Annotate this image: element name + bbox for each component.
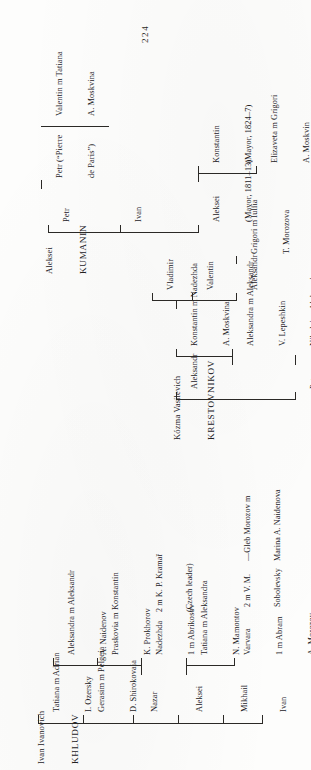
page-number: 224 (140, 25, 150, 43)
krestovnikov-spine (176, 399, 295, 400)
aleksei-child-varvara: Varvara 1 m Abram A. Morozov (222, 613, 311, 655)
kumanin-tick-1 (198, 225, 199, 233)
kr-k-tick-1 (236, 293, 237, 301)
nazar-tick-3 (53, 658, 54, 666)
varvara-second-marriage: 2 m V. M. Sobolevsky (222, 568, 304, 607)
aleksei-tick-2 (186, 658, 187, 666)
krestovnikov-child-petr: Petr (288, 375, 311, 389)
kumanin-aleksei-spine (198, 173, 256, 174)
kr-a-tick-1 (232, 349, 233, 357)
aleksei-spine (186, 665, 234, 666)
krestovnikov-grigori-stem (236, 256, 237, 264)
nazar-tick-2 (97, 658, 98, 666)
kumanin-spine (48, 232, 198, 233)
khludov-patriarch: Ivan Ivanovich KHLUDOV (14, 711, 104, 764)
khludov-tick-2 (223, 715, 224, 724)
kumanin-valentin-spine (41, 126, 109, 127)
krestovnikov-petr-stem (295, 355, 296, 365)
nazar-tick-1 (141, 658, 142, 666)
krestovnikov-konstantin-spine (152, 300, 236, 301)
kr-k-tick-2 (192, 293, 193, 301)
krestovnikov-aleksandr-stem (232, 356, 233, 365)
krestovnikov-child-aleksandr: Aleksandr (169, 354, 222, 389)
khludov-tick-5 (83, 715, 84, 724)
khludov-tick-3 (178, 715, 179, 724)
khludov-tick-6 (38, 715, 39, 724)
khludov-spine (38, 723, 262, 724)
aleksei-stem (186, 665, 187, 675)
krestovnikov-tick-2 (176, 392, 177, 400)
varvara-issue-gleb: —Gleb Morozov m Marina A. Naidenova (222, 489, 304, 561)
krestovnikov-aleksandr-spine (176, 356, 232, 357)
kr-a-tick-2 (176, 349, 177, 357)
kumanin-elizaveta: Elizaveta m Grigori A. Moskvin (249, 95, 311, 163)
kumanin-a-tick-1 (256, 166, 257, 174)
khludov-tick-4 (133, 715, 134, 724)
krestovnikov-tick-1 (295, 392, 296, 400)
krestovnikov-konstantin-stem (176, 300, 177, 309)
kumanin-child-ivan: Ivan (113, 207, 166, 222)
kumanin-a-tick-2 (198, 166, 199, 174)
kumanin-aleksei-stem (198, 173, 199, 182)
kumanin-valentin: Valentin m Tatiana A. Moskvina (34, 51, 119, 116)
khludov-child-ivan: Ivan (258, 697, 311, 712)
kumanin-petr-child: Petr (“Pierre de Paris”) (34, 135, 119, 178)
krestovnikov-gc-aleksandr: Aleksandr (229, 255, 282, 290)
aleksei-tick-1 (234, 658, 235, 666)
khludov-tick-1 (262, 715, 263, 724)
chart-page: Ivan Ivanovich KHLUDOV Tatiana m Adrian … (0, 0, 311, 770)
krestovnikov-grigori: Grigori m Iuliia T. Morozova (229, 199, 311, 254)
nazar-stem (141, 665, 142, 675)
kumanin-tick-2 (120, 225, 121, 233)
kumanin-petr-stem (41, 180, 42, 189)
kumanin-tick-3 (48, 225, 49, 233)
krestovnikov-nikolai: Nikolai m Aleksandra I. Chetverikova (288, 271, 311, 347)
kr-k-tick-3 (152, 293, 153, 301)
kumanin-child-petr: Petr (41, 208, 94, 222)
